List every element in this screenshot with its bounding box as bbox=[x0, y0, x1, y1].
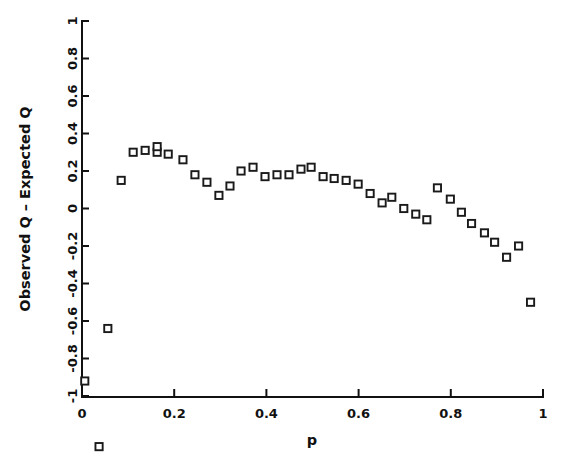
data-point bbox=[355, 181, 362, 188]
data-point bbox=[331, 175, 338, 182]
data-point bbox=[423, 216, 430, 223]
data-point bbox=[104, 325, 111, 332]
data-point bbox=[81, 377, 88, 384]
data-point bbox=[130, 149, 137, 156]
scatter-plot-figure: -1-0.8-0.6-0.4-0.200.20.40.60.81 00.20.4… bbox=[0, 0, 573, 465]
x-tick-label: 0.2 bbox=[163, 406, 186, 421]
data-point bbox=[458, 209, 465, 216]
y-tick-label: -0.4 bbox=[65, 269, 80, 297]
x-tick-label: 0.8 bbox=[439, 406, 462, 421]
data-point bbox=[285, 171, 292, 178]
y-axis-title: Observed Q – Expected Q bbox=[17, 106, 33, 311]
x-tick-label: 0 bbox=[77, 406, 86, 421]
y-tick-label: -0.2 bbox=[65, 232, 80, 260]
data-point bbox=[142, 147, 149, 154]
data-point bbox=[95, 443, 102, 450]
data-point bbox=[379, 199, 386, 206]
y-tick-label: 0.6 bbox=[65, 84, 80, 107]
y-tick-label: -0.6 bbox=[65, 307, 80, 335]
data-point bbox=[118, 177, 125, 184]
data-point bbox=[400, 205, 407, 212]
data-point bbox=[503, 254, 510, 261]
data-point bbox=[481, 229, 488, 236]
y-axis-tick-labels: -1-0.8-0.6-0.4-0.200.20.40.60.81 bbox=[65, 16, 80, 403]
data-point bbox=[367, 190, 374, 197]
y-tick-label: 1 bbox=[65, 16, 80, 25]
data-point bbox=[412, 211, 419, 218]
data-point bbox=[215, 192, 222, 199]
data-point bbox=[491, 239, 498, 246]
data-point bbox=[237, 167, 244, 174]
data-point bbox=[388, 194, 395, 201]
x-tick-label: 1 bbox=[538, 406, 547, 421]
x-tick-label: 0.4 bbox=[255, 406, 278, 421]
x-axis-tick-labels: 00.20.40.60.81 bbox=[77, 406, 547, 421]
data-point bbox=[179, 156, 186, 163]
y-tick-label: 0.2 bbox=[65, 159, 80, 182]
y-tick-label: -1 bbox=[65, 389, 80, 403]
data-point bbox=[434, 184, 441, 191]
x-axis-ticks bbox=[82, 389, 543, 397]
data-point bbox=[203, 179, 210, 186]
data-point-group bbox=[81, 143, 534, 450]
y-tick-label: 0.8 bbox=[65, 47, 80, 70]
y-tick-label: -0.8 bbox=[65, 344, 80, 372]
data-point bbox=[273, 171, 280, 178]
data-point bbox=[320, 173, 327, 180]
data-point bbox=[468, 220, 475, 227]
data-point bbox=[297, 166, 304, 173]
data-point bbox=[191, 171, 198, 178]
data-point bbox=[343, 177, 350, 184]
data-point bbox=[308, 164, 315, 171]
plot-canvas: -1-0.8-0.6-0.4-0.200.20.40.60.81 00.20.4… bbox=[0, 0, 573, 465]
data-point bbox=[527, 299, 534, 306]
data-point bbox=[154, 143, 161, 150]
y-tick-label: 0.4 bbox=[65, 122, 80, 145]
x-axis-title: p bbox=[307, 432, 317, 448]
data-point bbox=[261, 173, 268, 180]
data-point bbox=[165, 151, 172, 158]
y-tick-label: 0 bbox=[65, 204, 80, 213]
data-point bbox=[226, 182, 233, 189]
data-point bbox=[249, 164, 256, 171]
y-axis-ticks bbox=[82, 21, 89, 396]
data-point bbox=[447, 196, 454, 203]
x-tick-label: 0.6 bbox=[347, 406, 370, 421]
data-point bbox=[515, 242, 522, 249]
